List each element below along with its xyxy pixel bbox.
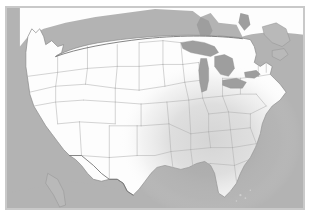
- map-figure: [0, 0, 311, 222]
- map-frame: [5, 6, 305, 210]
- us-map-svg[interactable]: [6, 7, 304, 209]
